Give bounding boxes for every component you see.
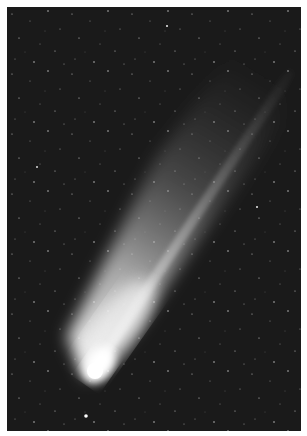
comet-image (7, 7, 301, 431)
comet-photograph (7, 7, 301, 431)
